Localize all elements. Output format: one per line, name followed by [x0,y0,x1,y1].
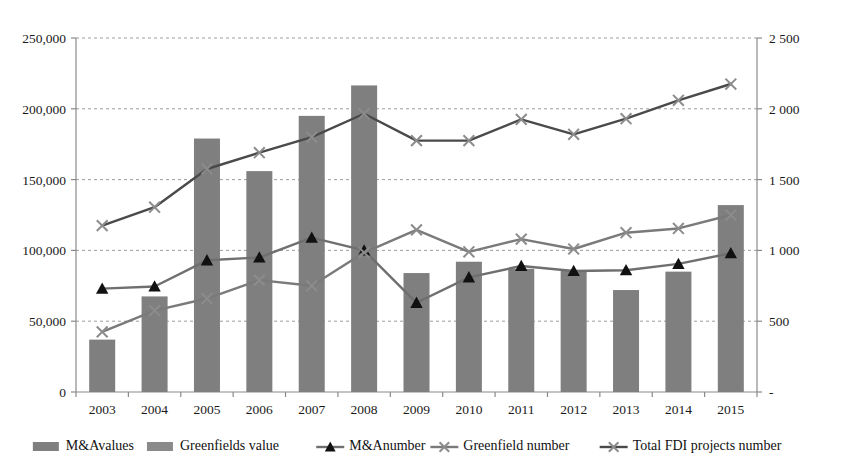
category-label-2013: 2013 [613,402,640,417]
right-axis-tick-label: 2 500 [769,31,800,46]
bar-m-avalues-2007 [299,116,325,392]
category-label-2012: 2012 [560,402,587,417]
right-axis-tick-label: 1 000 [769,243,800,258]
bar-m-avalues-2003 [89,340,115,392]
legend-item-greenfields-value[interactable]: Greenfields value [147,438,279,453]
category-label-2008: 2008 [351,402,378,417]
category-label-2003: 2003 [89,402,116,417]
left-axis-tick-label: 150,000 [22,173,66,188]
fdi-chart-figure: 050,000100,000150,000200,000250,000 -500… [0,0,841,469]
bar-m-avalues-2015 [718,205,744,392]
legend: M&AvaluesGreenfields valueM&AnumberGreen… [33,438,782,453]
category-label-2004: 2004 [141,402,168,417]
marker-x-total-fdi-projects-number-2003 [97,220,108,231]
marker-x-greenfield-number-2003 [97,326,108,337]
marker-x-greenfield-number-2009 [411,224,422,235]
marker-x-total-fdi-projects-number-2004 [149,202,160,213]
legend-item-m-avalues[interactable]: M&Avalues [33,438,134,453]
legend-item-m-anumber[interactable]: M&Anumber [316,438,426,453]
category-label-2010: 2010 [455,402,482,417]
category-label-2015: 2015 [717,402,744,417]
legend-item-total-fdi-projects-number[interactable]: Total FDI projects number [600,438,782,453]
right-axis-tick-label: 1 500 [769,173,800,188]
bar-m-avalues-2013 [613,290,639,392]
category-label-2007: 2007 [298,402,325,417]
left-axis-tick-label: 50,000 [29,314,66,329]
bar-m-avalues-2011 [508,269,534,392]
chart-canvas: 050,000100,000150,000200,000250,000 -500… [0,0,841,469]
legend-swatch-bar [33,442,59,451]
legend-item-greenfield-number[interactable]: Greenfield number [430,438,569,453]
right-axis-tick-label: 500 [769,314,790,329]
category-label-2006: 2006 [246,402,273,417]
category-axis-labels: 2003200420052006200720082009201020112012… [89,402,745,417]
left-axis-tick-label: 200,000 [22,102,66,117]
left-axis-tick-label: 0 [59,385,66,400]
category-label-2014: 2014 [665,402,692,417]
category-label-2009: 2009 [403,402,430,417]
legend-swatch-bar [147,442,173,451]
category-label-2011: 2011 [508,402,535,417]
bar-m-avalues-2014 [665,272,691,392]
legend-label-m-avalues: M&Avalues [66,438,134,453]
legend-label-greenfield-number: Greenfield number [463,438,569,453]
left-axis-labels: 050,000100,000150,000200,000250,000 [22,31,66,400]
left-axis-tick-label: 100,000 [22,243,66,258]
lines-layer [96,79,737,338]
legend-label-greenfields-value: Greenfields value [180,438,279,453]
bar-m-avalues-2012 [561,270,587,392]
right-axis-tick-label: - [769,385,774,400]
right-axis-tick-label: 2 000 [769,102,800,117]
legend-label-total-fdi-projects-number: Total FDI projects number [633,438,782,453]
bars-layer [89,85,744,392]
legend-label-m-anumber: M&Anumber [349,438,426,453]
category-label-2005: 2005 [193,402,220,417]
bar-m-avalues-2009 [404,273,430,392]
left-axis-tick-label: 250,000 [22,31,66,46]
right-axis-labels: -5001 0001 5002 0002 500 [769,31,800,400]
bar-m-avalues-2008 [351,85,377,392]
